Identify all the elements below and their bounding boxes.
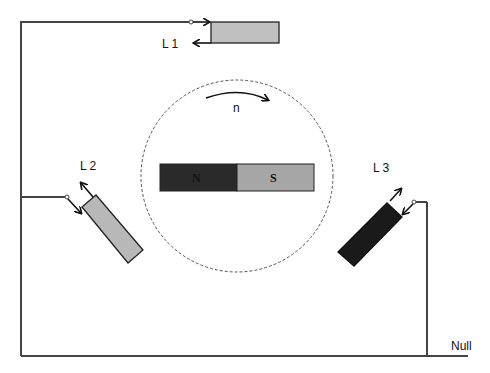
label-l3: L 3 <box>373 161 390 175</box>
coil-l2: L 2 <box>65 159 143 263</box>
arrow-in-l3 <box>403 204 413 214</box>
coil-l3-body <box>338 203 402 266</box>
coil-l2-body <box>82 195 143 263</box>
terminal-l2 <box>65 195 69 199</box>
label-l2: L 2 <box>80 159 97 173</box>
rotor: n N S <box>141 80 333 272</box>
generator-diagram: L 1 n N S L 2 L 3 Null <box>0 0 490 373</box>
rotation-label: n <box>233 101 240 115</box>
label-l1: L 1 <box>162 37 179 51</box>
arrow-out-l2 <box>81 183 93 197</box>
terminal-l1 <box>189 20 193 24</box>
null-label: Null <box>451 339 472 353</box>
north-label: N <box>192 171 201 185</box>
rotation-arrow-icon <box>206 92 268 100</box>
coil-l1: L 1 <box>162 20 279 51</box>
coil-l1-body <box>211 22 279 43</box>
terminal-l3 <box>412 200 416 204</box>
arrow-in-l2 <box>68 199 81 213</box>
coil-l3: L 3 <box>338 161 427 266</box>
arrow-out-l3 <box>390 189 401 201</box>
south-label: S <box>270 171 277 185</box>
